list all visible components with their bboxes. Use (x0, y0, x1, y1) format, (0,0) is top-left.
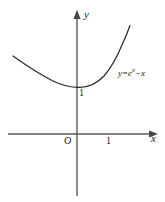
plot-canvas (0, 0, 165, 202)
y-axis-tick-label-1: 1 (79, 88, 84, 98)
x-axis-tick-label-1: 1 (106, 136, 111, 146)
y-axis-arrow-icon (73, 10, 80, 19)
y-axis-label: y (84, 9, 89, 20)
exponential-curve (13, 26, 130, 88)
math-figure: y x O 1 1 y=ex−x (0, 0, 165, 202)
origin-label: O (64, 136, 71, 146)
curve-equation-label: y=ex−x (118, 69, 145, 78)
equation-lhs: y=e (118, 68, 132, 78)
x-axis-label: x (151, 133, 156, 144)
equation-rhs: −x (135, 68, 145, 78)
